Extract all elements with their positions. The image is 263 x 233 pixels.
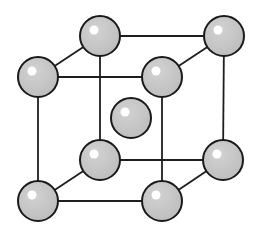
atom-highlight (152, 67, 161, 76)
atom-sphere (80, 140, 120, 180)
atom-sphere (18, 181, 58, 221)
atom-highlight (90, 26, 99, 35)
atom-sphere (204, 16, 244, 56)
atom-front-bottom-left (18, 181, 58, 221)
atom-front-top-right (142, 57, 182, 97)
atom-highlight (28, 191, 37, 200)
atom-highlight (90, 150, 99, 159)
atom-back-top-left (80, 16, 120, 56)
atom-sphere (80, 16, 120, 56)
atom-back-bottom-left (80, 140, 120, 180)
atoms (18, 16, 244, 221)
atom-back-top-right (204, 16, 244, 56)
atom-front-bottom-right (142, 181, 182, 221)
atom-sphere (203, 140, 243, 180)
atom-sphere (142, 57, 182, 97)
atom-highlight (214, 26, 223, 35)
atom-highlight (213, 150, 222, 159)
atom-back-bottom-right (203, 140, 243, 180)
atom-front-top-left (18, 57, 58, 97)
atom-highlight (121, 108, 130, 117)
atom-highlight (28, 67, 37, 76)
atom-center (111, 98, 151, 138)
bcc-unit-cell-diagram (0, 0, 263, 233)
atom-sphere (18, 57, 58, 97)
atom-sphere (142, 181, 182, 221)
atom-sphere (111, 98, 151, 138)
atom-highlight (152, 191, 161, 200)
